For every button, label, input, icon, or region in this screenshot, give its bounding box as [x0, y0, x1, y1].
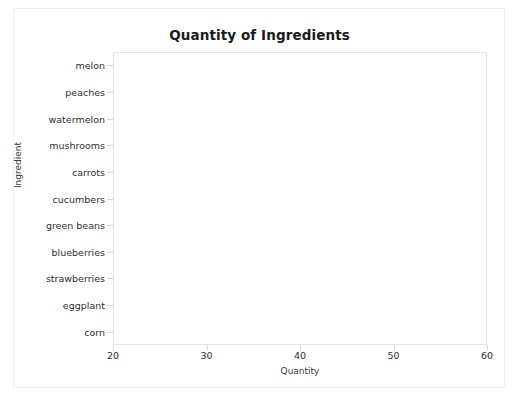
x-tick-label: 30 [200, 350, 212, 361]
x-tick-label: 40 [294, 350, 306, 361]
x-tick-mark [207, 345, 208, 350]
x-tick-mark [487, 345, 488, 350]
y-tick-mark [107, 92, 113, 93]
y-tick-label: eggplant [0, 300, 105, 311]
x-tick-mark [394, 345, 395, 350]
chart-title: Quantity of Ingredients [0, 27, 519, 43]
y-tick-label: peaches [0, 86, 105, 97]
y-tick-mark [107, 172, 113, 173]
y-tick-label: green beans [0, 220, 105, 231]
x-tick-label: 60 [481, 350, 493, 361]
y-tick-label: mushrooms [0, 140, 105, 151]
x-tick-label: 50 [387, 350, 399, 361]
y-tick-mark [107, 332, 113, 333]
x-tick-label: 20 [107, 350, 119, 361]
x-tick-mark [300, 345, 301, 350]
y-tick-mark [107, 65, 113, 66]
data-layer [114, 53, 486, 344]
y-tick-mark [107, 305, 113, 306]
y-tick-mark [107, 252, 113, 253]
chart-figure: Quantity of Ingredients Ingredient melon… [0, 0, 519, 405]
y-axis-tick-labels: melonpeacheswatermelonmushroomscarrotscu… [0, 52, 105, 345]
y-tick-label: blueberries [0, 246, 105, 257]
y-tick-label: corn [0, 326, 105, 337]
x-axis-label: Quantity [113, 366, 487, 376]
y-tick-label: carrots [0, 166, 105, 177]
y-tick-mark [107, 278, 113, 279]
y-tick-mark [107, 225, 113, 226]
y-tick-label: strawberries [0, 273, 105, 284]
y-tick-label: watermelon [0, 113, 105, 124]
y-tick-mark [107, 145, 113, 146]
y-tick-mark [107, 119, 113, 120]
plot-area [113, 52, 487, 345]
y-tick-mark [107, 199, 113, 200]
x-tick-mark [113, 345, 114, 350]
y-tick-label: cucumbers [0, 193, 105, 204]
y-tick-label: melon [0, 60, 105, 71]
